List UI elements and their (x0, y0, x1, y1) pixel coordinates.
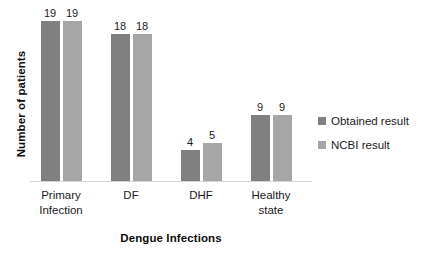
bar-ncbi-result[interactable] (133, 34, 152, 181)
bar-value-label: 5 (209, 129, 215, 142)
plot-area: 19 19 18 18 (30, 14, 312, 182)
bar-obtained-result[interactable] (41, 21, 60, 181)
x-axis-title: Dengue Infections (30, 232, 312, 244)
bar-wrap: 4 (181, 150, 200, 181)
bar-wrap: 19 (63, 21, 82, 181)
x-tick-label-df: DF (91, 188, 171, 203)
legend-item-ncbi-result[interactable]: NCBI result (318, 139, 428, 151)
bar-ncbi-result[interactable] (203, 143, 222, 181)
bar-wrap: 5 (203, 143, 222, 181)
x-tick-label-healthy-state: Healthy state (231, 188, 311, 218)
bar-value-label: 18 (136, 20, 148, 33)
bar-obtained-result[interactable] (111, 34, 130, 181)
bar-value-label: 4 (187, 136, 193, 149)
x-axis-line (30, 181, 312, 182)
bar-value-label: 19 (66, 7, 78, 20)
x-tick-label-line: Primary (21, 188, 101, 203)
legend-label: NCBI result (331, 139, 390, 151)
bar-chart: Number of patients 19 19 18 (0, 0, 429, 263)
bar-ncbi-result[interactable] (63, 21, 82, 181)
bar-group-df: 18 18 (100, 14, 162, 181)
legend-label: Obtained result (331, 115, 409, 127)
x-tick-label-dhf: DHF (161, 188, 241, 203)
bar-wrap: 18 (133, 34, 152, 181)
bar-value-label: 19 (44, 7, 56, 20)
bar-group-healthy-state: 9 9 (240, 14, 302, 181)
y-axis-title: Number of patients (15, 34, 27, 174)
bar-value-label: 18 (114, 20, 126, 33)
bar-group-dhf: 4 5 (170, 14, 232, 181)
bar-ncbi-result[interactable] (273, 115, 292, 181)
legend-item-obtained-result[interactable]: Obtained result (318, 115, 428, 127)
bar-obtained-result[interactable] (251, 115, 270, 181)
legend-swatch-icon (318, 141, 326, 149)
legend-swatch-icon (318, 117, 326, 125)
bar-obtained-result[interactable] (181, 150, 200, 181)
bar-wrap: 18 (111, 34, 130, 181)
chart-legend: Obtained result NCBI result (318, 115, 428, 163)
x-tick-label-line: state (231, 203, 311, 218)
bar-wrap: 19 (41, 21, 60, 181)
bar-value-label: 9 (257, 101, 263, 114)
x-tick-label-line: DF (91, 188, 171, 203)
bar-wrap: 9 (251, 115, 270, 181)
x-tick-label-line: Healthy (231, 188, 311, 203)
x-tick-label-primary-infection: Primary Infection (21, 188, 101, 218)
bar-wrap: 9 (273, 115, 292, 181)
x-tick-label-line: Infection (21, 203, 101, 218)
bar-value-label: 9 (279, 101, 285, 114)
x-tick-label-line: DHF (161, 188, 241, 203)
bar-group-primary-infection: 19 19 (30, 14, 92, 181)
